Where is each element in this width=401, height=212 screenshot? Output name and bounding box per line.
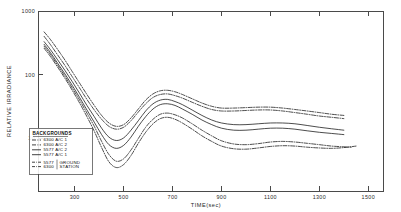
x-tick-label-1300: 1300 xyxy=(313,194,326,200)
top-axis-ticks xyxy=(75,11,369,16)
x-tick-label-700: 700 xyxy=(168,194,178,200)
x-tick-label-1100: 1100 xyxy=(264,194,277,200)
legend-title: BACKGROUNDS xyxy=(33,131,72,136)
legend: BACKGROUNDS 6300 A/C 16300 A/C 25577 A/C… xyxy=(29,128,92,174)
bottom-axis-ticks xyxy=(75,186,369,191)
curve-6300-a-c-1 xyxy=(44,32,344,127)
y-tick-label-100: 100 xyxy=(25,72,35,78)
x-tick-labels: 300500700900110013001500 xyxy=(70,194,375,200)
x-tick-label-300: 300 xyxy=(70,194,80,200)
x-axis-title: TIME(sec) xyxy=(191,202,221,208)
y-axis-title: RELATIVE IRRADIANCE xyxy=(6,65,12,137)
legend-ground-code-1: 6300 xyxy=(44,164,55,169)
x-tick-label-1500: 1500 xyxy=(362,194,375,200)
y-tick-label-1000: 1000 xyxy=(22,8,35,14)
y-tick-labels: 101001000 xyxy=(22,8,35,141)
legend-label-5577-a-c-1: 5577 A/C 1 xyxy=(44,152,68,157)
x-tick-label-900: 900 xyxy=(216,194,226,200)
y-axis-ticks xyxy=(38,11,43,138)
curve-5577-a-c-2 xyxy=(44,42,344,141)
chart-figure: 300500700900110013001500 101001000 TIME(… xyxy=(0,0,401,212)
irradiance-vs-time-chart: 300500700900110013001500 101001000 TIME(… xyxy=(0,0,401,212)
legend-ground-group-1: STATION xyxy=(60,164,80,169)
x-tick-label-500: 500 xyxy=(119,194,129,200)
